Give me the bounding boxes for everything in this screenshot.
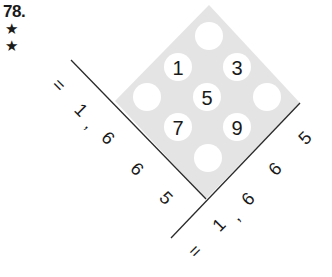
sum-char: 6 — [97, 127, 118, 148]
sum-char: , — [81, 115, 99, 133]
cell-value: 9 — [231, 117, 242, 139]
sum-char: 6 — [126, 158, 147, 179]
sum-char: , — [226, 207, 244, 225]
puzzle-diagram: 1 3 5 7 9 = 1 , 6 6 5 = 1 , 6 6 5 — [0, 0, 332, 277]
cell-value: 1 — [172, 57, 183, 79]
sum-char: = — [184, 240, 206, 262]
sum-char: 6 — [264, 158, 285, 179]
cell-value: 3 — [231, 57, 242, 79]
sum-char: 6 — [237, 188, 258, 209]
sum-char: 1 — [70, 99, 91, 120]
sum-char: 5 — [155, 187, 176, 208]
sum-char: = — [48, 74, 70, 96]
cell-bottom[interactable] — [194, 144, 222, 172]
cell-value: 5 — [201, 87, 212, 109]
sum-char: 1 — [208, 214, 229, 235]
cell-top[interactable] — [195, 22, 223, 50]
cell-value: 7 — [172, 117, 183, 139]
cell-right[interactable] — [253, 83, 281, 111]
cell-left[interactable] — [133, 83, 161, 111]
sum-char: 5 — [294, 127, 315, 148]
